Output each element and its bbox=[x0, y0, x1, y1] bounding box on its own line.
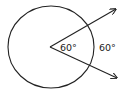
arc-measure-label: 60° bbox=[99, 42, 116, 53]
central-angle-label: 60° bbox=[60, 42, 77, 53]
circle-angle-diagram: 60° 60° bbox=[0, 0, 127, 94]
